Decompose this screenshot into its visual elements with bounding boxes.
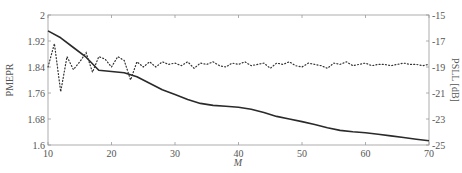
x-axis-title: M: [233, 157, 243, 168]
y2-tick-label: -25: [432, 140, 445, 151]
series-line-psll: [48, 44, 429, 92]
series-line-pmepr: [48, 31, 429, 141]
y2-tick-label: -15: [432, 10, 445, 21]
y2-axis-title: PSLL [dB]: [450, 58, 461, 102]
y-tick-label: 1.68: [28, 114, 46, 125]
y-tick-label: 1.92: [28, 36, 46, 47]
x-tick-label: 20: [107, 148, 117, 159]
y-tick-label: 1.84: [28, 62, 46, 73]
y2-tick-label: -23: [432, 114, 445, 125]
x-tick-label: 30: [170, 148, 180, 159]
y2-tick-label: -21: [432, 88, 445, 99]
y-tick-label: 2: [40, 10, 45, 21]
y2-tick-label: -17: [432, 36, 445, 47]
plot-frame: [48, 15, 429, 145]
y-axis-left: 1.61.681.761.841.922: [28, 10, 52, 151]
series-layer: [48, 31, 429, 141]
y2-tick-label: -19: [432, 62, 445, 73]
x-axis: 10203040506070: [43, 15, 434, 159]
x-tick-label: 50: [297, 148, 307, 159]
x-tick-label: 60: [361, 148, 371, 159]
chart: 10203040506070 1.61.681.761.841.922 -25-…: [0, 0, 462, 173]
y-axis-title: PMEPR: [4, 63, 15, 96]
y-tick-label: 1.6: [33, 140, 46, 151]
y-tick-label: 1.76: [28, 88, 46, 99]
